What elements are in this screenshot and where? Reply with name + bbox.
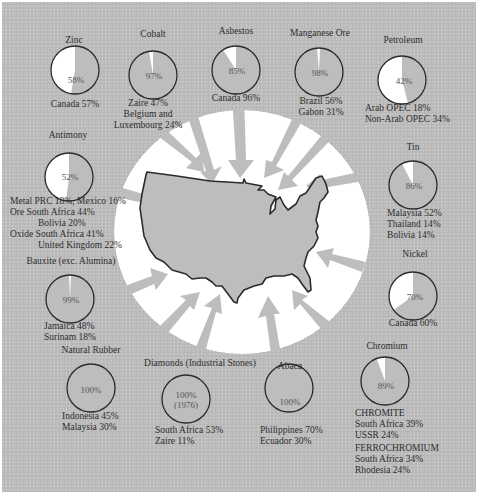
pie-pct-natural-rubber: 100% <box>81 385 102 395</box>
source-line: Bolivia 14% <box>387 230 442 241</box>
pie-sources-petroleum: Arab OPEC 18% Non-Arab OPEC 34% <box>365 103 450 125</box>
source-line: Surinam 18% <box>44 332 96 343</box>
pie-sources-natural-rubber: Indonesia 45% Malaysia 30% <box>62 411 119 433</box>
pie-sources-diamonds: South Africa 53% Zaire 11% <box>155 425 223 447</box>
source-line: United Kingdom 22% <box>10 240 126 251</box>
pie-sources-bauxite: Jamaica 48% Surinam 18% <box>44 321 96 343</box>
pie-pct-asbestos: 85% <box>229 66 246 76</box>
source-line: Belgium and <box>114 109 183 120</box>
pie-title-asbestos: Asbestos <box>219 26 253 37</box>
pie-sources-antimony: Metal PRC 18%, Mexico 16% Ore South Afri… <box>10 196 126 251</box>
pie-sources-tin: Malaysia 52% Thailand 14% Bolivia 14% <box>387 208 442 241</box>
pie-sources-manganese-ore: Brazil 56% Gabon 31% <box>298 96 343 118</box>
source-line: South Africa 53% <box>155 425 223 436</box>
source-line: Arab OPEC 18% <box>365 103 450 114</box>
source-line: Luxembourg 24% <box>114 120 183 131</box>
source-line: Philippines 70% <box>260 425 323 436</box>
source-line: CHROMITE <box>355 408 439 419</box>
source-line: Brazil 56% <box>298 96 343 107</box>
source-line: Gabon 31% <box>298 107 343 118</box>
source-line: Malaysia 30% <box>62 422 119 433</box>
pie-pct-abaca: 100% <box>280 397 301 407</box>
pie-pct-diamonds: 100% (1976) <box>174 390 198 410</box>
pie-pct-cobalt: 97% <box>146 71 163 81</box>
pie-pct-chromium: 89% <box>378 381 395 391</box>
pct-year: (1976) <box>174 400 198 410</box>
pie-sources-zinc: Canada 57% <box>51 99 99 110</box>
source-line: Oxide South Africa 41% <box>10 229 126 240</box>
source-line: Zaire 47% <box>114 98 183 109</box>
pie-sources-nickel: Canada 60% <box>389 318 437 329</box>
source-line: Thailand 14% <box>387 219 442 230</box>
pie-pct-zinc: 58% <box>68 75 85 85</box>
source-line: Ecuador 30% <box>260 436 323 447</box>
pie-zinc <box>51 46 99 94</box>
source-line: Indonesia 45% <box>62 411 119 422</box>
pie-sources-chromium: CHROMITE South Africa 39% USSR 24% FERRO… <box>355 408 439 476</box>
pie-title-natural-rubber: Natural Rubber <box>62 345 121 356</box>
pie-title-manganese-ore: Manganese Ore <box>290 28 350 39</box>
source-line: Canada 96% <box>212 93 260 104</box>
pie-title-zinc: Zinc <box>65 35 82 46</box>
pie-title-diamonds: Diamonds (Industrial Stones) <box>144 358 256 369</box>
pie-pct-bauxite: 99% <box>63 295 80 305</box>
pie-pct-manganese-ore: 98% <box>312 68 329 78</box>
pie-title-nickel: Nickel <box>402 249 427 260</box>
source-line: South Africa 39% <box>355 419 439 430</box>
pct-value: 100% <box>174 390 198 400</box>
source-line: South Africa 34% <box>355 454 439 465</box>
source-line: Metal PRC 18%, Mexico 16% <box>10 196 126 207</box>
pie-title-tin: Tin <box>407 142 420 153</box>
pie-title-bauxite: Bauxite (exc. Alumina) <box>27 256 116 267</box>
source-line: Zaire 11% <box>155 436 223 447</box>
pie-sources-asbestos: Canada 96% <box>212 93 260 104</box>
source-line: Jamaica 48% <box>44 321 96 332</box>
pie-title-cobalt: Cobalt <box>140 29 165 40</box>
pie-title-chromium: Chromium <box>366 341 407 352</box>
source-line: Non-Arab OPEC 34% <box>365 114 450 125</box>
pie-title-petroleum: Petroleum <box>383 35 422 46</box>
pie-pct-petroleum: 42% <box>396 76 413 86</box>
pie-pct-tin: 86% <box>406 181 423 191</box>
source-line: USSR 24% <box>355 430 439 441</box>
pie-title-abaca: Abaca <box>278 361 302 372</box>
pie-pct-antimony: 52% <box>62 172 79 182</box>
pie-title-antimony: Antimony <box>49 130 88 141</box>
source-line: FERROCHROMIUM <box>355 443 439 454</box>
pie-sources-cobalt: Zaire 47% Belgium and Luxembourg 24% <box>114 98 183 131</box>
pie-sources-abaca: Philippines 70% Ecuador 30% <box>260 425 323 447</box>
source-line: Ore South Africa 44% <box>10 207 126 218</box>
source-line: Bolivia 20% <box>10 218 126 229</box>
source-line: Rhodesia 24% <box>355 465 439 476</box>
source-line: Canada 57% <box>51 99 99 110</box>
pie-pct-nickel: 70% <box>407 292 424 302</box>
source-line: Canada 60% <box>389 318 437 329</box>
import-reliance-figure: Zinc 58% Canada 57% Cobalt 97% Zaire 47%… <box>0 0 480 502</box>
source-line: Malaysia 52% <box>387 208 442 219</box>
